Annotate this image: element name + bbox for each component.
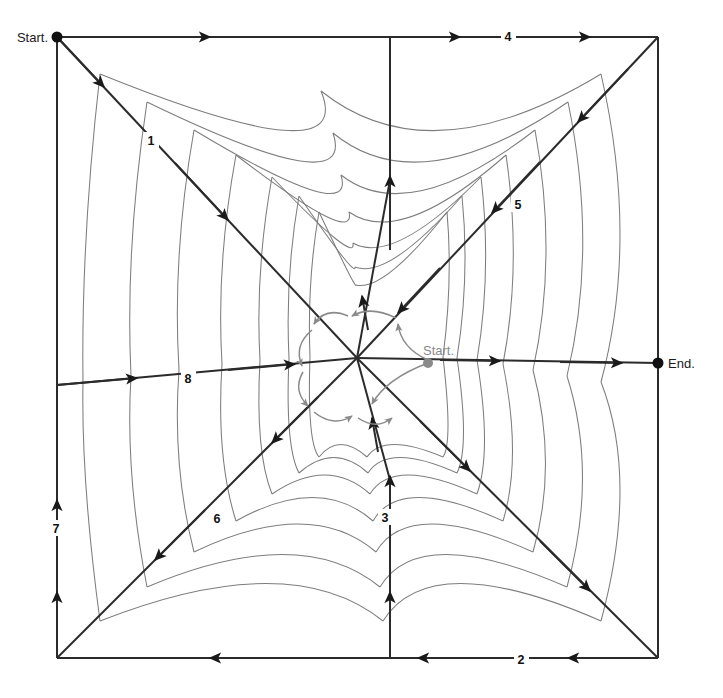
step-label-8: 8	[181, 370, 196, 386]
end-outer-dot	[653, 358, 664, 369]
web-thread-ring-3	[177, 130, 546, 552]
step-label-6-text: 6	[214, 512, 221, 526]
step-label-3: 3	[378, 509, 393, 525]
spider-web-diagram: 1 2 3 4 5 6 7	[0, 0, 723, 698]
spoke-se	[357, 358, 658, 658]
start-outer-dot	[52, 32, 63, 43]
step-label-4-text: 4	[505, 30, 512, 44]
web-canvas: 1 2 3 4 5 6 7	[0, 0, 723, 698]
spoke-w	[57, 358, 357, 385]
step-label-2: 2	[514, 651, 529, 667]
start-inner-dot	[423, 358, 433, 368]
step-label-8-text: 8	[185, 372, 192, 386]
spoke-s	[357, 358, 390, 658]
spiral-seg-3	[352, 311, 396, 318]
step-label-3-text: 3	[382, 511, 389, 525]
spoke-e	[357, 358, 658, 363]
frame-group	[57, 37, 658, 658]
step-label-1-text: 1	[148, 134, 155, 148]
spiral-seg-6	[299, 372, 308, 406]
spoke-n	[357, 37, 390, 358]
step-label-6: 6	[210, 510, 225, 526]
spoke-sw	[57, 358, 357, 658]
step-label-7-text: 7	[53, 522, 60, 536]
step-label-5: 5	[511, 196, 526, 212]
spoke-ne	[357, 37, 658, 358]
spiral-seg-1	[372, 363, 428, 404]
spiral-seg-7	[314, 412, 352, 421]
spiral-seg-4	[314, 313, 348, 324]
step-label-2-text: 2	[518, 653, 525, 667]
marker-start-inner: Start.	[423, 343, 454, 368]
step-label-7: 7	[49, 520, 64, 536]
spokes-group	[57, 37, 658, 658]
step-label-1: 1	[144, 132, 159, 148]
spoke-nw	[57, 37, 357, 358]
start-outer-label: Start.	[17, 30, 48, 45]
marker-start-outer: Start.	[17, 30, 63, 45]
step-label-5-text: 5	[515, 198, 522, 212]
step-label-4: 4	[501, 28, 516, 44]
web-thread-ring-5	[259, 177, 486, 494]
end-outer-label: End.	[668, 356, 695, 371]
start-inner-label: Start.	[423, 343, 454, 358]
